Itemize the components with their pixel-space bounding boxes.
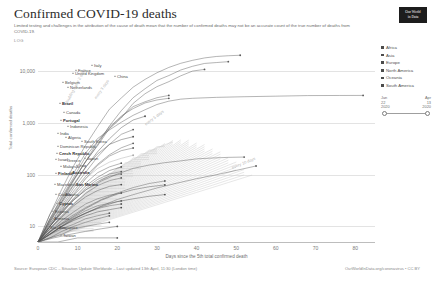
series-endpoint xyxy=(255,165,257,167)
y-tick-label: 100 xyxy=(27,172,35,178)
chart-header: Confirmed COVID-19 deaths Limited testin… xyxy=(14,6,374,34)
series-endpoint xyxy=(132,142,134,144)
legend-item[interactable]: Asia xyxy=(381,53,431,58)
legend-label: Africa xyxy=(386,45,397,50)
series-label[interactable]: Taiwan xyxy=(63,233,76,238)
legend-label: South America xyxy=(386,83,414,88)
series-endpoint xyxy=(116,237,118,239)
y-axis-title: Total confirmed deaths xyxy=(8,106,13,150)
series-endpoint xyxy=(120,203,122,205)
series-label[interactable]: Indonesia xyxy=(70,124,88,129)
series-endpoint xyxy=(204,69,206,71)
x-axis-line xyxy=(38,242,375,244)
slider-start-date: Jan 22 2020 xyxy=(381,96,390,110)
legend-label: Asia xyxy=(386,53,394,58)
series-endpoint xyxy=(164,180,166,182)
legend-label: North America xyxy=(386,68,413,73)
series-endpoint xyxy=(243,156,245,158)
series-endpoint xyxy=(132,129,134,131)
slider-rail xyxy=(383,113,429,114)
page-title: Confirmed COVID-19 deaths xyxy=(14,6,374,21)
x-tick-label: 70 xyxy=(313,245,319,251)
x-axis-title: Days since the 5th total confirmed death xyxy=(38,254,375,259)
slider-handle-start[interactable] xyxy=(382,111,387,116)
legend-swatch xyxy=(381,77,384,80)
y-tick-label: 10 xyxy=(29,223,35,229)
series-label[interactable]: Canada xyxy=(66,110,80,115)
slider-end-date: Apr 13 2020 xyxy=(422,96,431,110)
series-endpoint xyxy=(108,221,110,223)
series-label[interactable]: Cyprus xyxy=(59,201,73,206)
series-endpoint xyxy=(120,171,122,173)
series-label[interactable]: Singapore xyxy=(59,225,78,230)
x-tick-label: 10 xyxy=(75,245,81,251)
series-endpoint xyxy=(120,166,122,168)
series-label[interactable]: China xyxy=(117,74,128,79)
series-label[interactable]: Armenia xyxy=(54,216,69,221)
series-endpoint xyxy=(120,200,122,202)
source-note: Source: European CDC – Situation Update … xyxy=(14,266,197,271)
series-label[interactable]: Italy xyxy=(94,63,102,68)
x-tick-label: 80 xyxy=(352,245,358,251)
legend-swatch xyxy=(381,54,384,57)
legend-item[interactable]: North America xyxy=(381,68,431,73)
legend-label: Europe xyxy=(386,60,400,65)
series-endpoint xyxy=(120,177,122,179)
series-endpoint xyxy=(120,192,122,194)
series-endpoint xyxy=(239,54,241,56)
series-label[interactable]: Portugal xyxy=(63,118,80,123)
series-label[interactable]: Estonia xyxy=(55,209,69,214)
x-tick-label: 60 xyxy=(273,245,279,251)
series-label[interactable]: Czech Republic xyxy=(59,151,89,156)
series-label[interactable]: Iraq xyxy=(79,163,86,168)
series-endpoint xyxy=(120,173,122,175)
time-slider[interactable]: Jan 22 2020 Apr 13 2020 xyxy=(381,96,431,115)
legend-swatch xyxy=(381,69,384,72)
owid-logo: Our World in Data xyxy=(399,7,427,23)
series-endpoint xyxy=(120,207,122,209)
series-label[interactable]: South Korea xyxy=(84,139,107,144)
series-label[interactable]: Japan xyxy=(87,156,98,161)
continent-legend: AfricaAsiaEuropeNorth AmericaOceaniaSout… xyxy=(381,45,431,91)
plot-area: 101001,00010,000 ItalyFranceUnited Kingd… xyxy=(38,46,375,242)
x-tick-label: 0 xyxy=(37,245,40,251)
y-tick-label: 1,000 xyxy=(22,120,35,126)
series-endpoint xyxy=(132,154,134,156)
series-label[interactable]: Algeria xyxy=(68,135,81,140)
chart-subtitle: Limited testing and challenges in the at… xyxy=(14,23,366,34)
legend-swatch xyxy=(381,46,384,49)
legend-label: Oceania xyxy=(386,75,402,80)
x-tick-label: 50 xyxy=(233,245,239,251)
series-endpoint xyxy=(120,162,122,164)
attribution-note[interactable]: OurWorldInData.org/coronavirus • CC BY xyxy=(345,266,420,271)
legend-item[interactable]: Oceania xyxy=(381,75,431,80)
slider-handle-end[interactable] xyxy=(425,111,430,116)
series-label[interactable]: Albania xyxy=(65,192,79,197)
series-endpoint xyxy=(132,147,134,149)
series-endpoint xyxy=(164,194,166,196)
series-label[interactable]: San Marino xyxy=(76,182,98,187)
log-scale-badge[interactable]: LOG xyxy=(14,38,24,43)
series-endpoint xyxy=(116,225,118,227)
series-endpoint xyxy=(227,61,229,63)
logo-line-2: in Data xyxy=(408,15,418,20)
y-tick-label: 10,000 xyxy=(20,68,35,74)
x-tick-label: 30 xyxy=(154,245,160,251)
series-endpoint xyxy=(132,136,134,138)
series-endpoint xyxy=(164,184,166,186)
legend-item[interactable]: Africa xyxy=(381,45,431,50)
chart-footer: Source: European CDC – Situation Update … xyxy=(14,266,420,271)
series-endpoint xyxy=(144,115,146,117)
x-tick-label: 40 xyxy=(194,245,200,251)
legend-item[interactable]: South America xyxy=(381,83,431,88)
series-label[interactable]: Dominican Republic xyxy=(60,144,96,149)
series-endpoint xyxy=(108,212,110,214)
series-endpoint xyxy=(168,95,170,97)
series-endpoint xyxy=(120,184,122,186)
slider-track[interactable] xyxy=(381,111,431,115)
legend-swatch xyxy=(381,61,384,64)
series-endpoint xyxy=(168,97,170,99)
series-label[interactable]: Australia xyxy=(72,170,90,175)
legend-item[interactable]: Europe xyxy=(381,60,431,65)
series-endpoint xyxy=(108,215,110,217)
